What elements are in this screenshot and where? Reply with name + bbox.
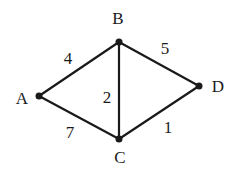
weight-c-d: 1 <box>164 118 173 137</box>
node-label-c: C <box>114 148 125 167</box>
weight-a-c: 7 <box>66 123 75 142</box>
node-b <box>116 39 123 46</box>
graph-diagram: A B C D 4 5 2 7 1 <box>0 0 237 176</box>
node-label-a: A <box>16 89 29 108</box>
node-label-d: D <box>212 77 224 96</box>
node-d <box>196 83 203 90</box>
node-label-b: B <box>112 9 123 28</box>
weight-b-d: 5 <box>161 39 170 58</box>
node-a <box>36 93 43 100</box>
weight-b-c: 2 <box>103 88 112 107</box>
edge-b-d <box>119 42 199 86</box>
edge-c-d <box>119 86 199 139</box>
weight-a-b: 4 <box>64 49 73 68</box>
node-c <box>116 136 123 143</box>
